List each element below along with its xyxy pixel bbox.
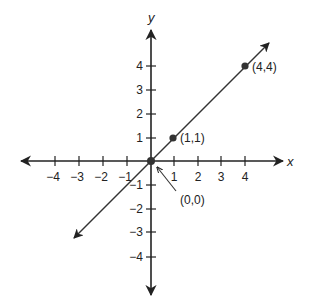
x-tick-label: −4: [46, 170, 60, 184]
point-origin: [147, 157, 155, 165]
x-tick-label: 3: [218, 170, 225, 184]
y-tick-label: 1: [136, 131, 143, 145]
point-label-1-1: (1,1): [180, 131, 205, 145]
x-tick-label: 4: [242, 170, 249, 184]
point-4-4: [241, 62, 248, 69]
point-label-4-4: (4,4): [252, 60, 277, 74]
x-tick-label: −2: [94, 170, 108, 184]
y-tick-label: −4: [129, 250, 143, 264]
y-tick-label: −2: [129, 202, 143, 216]
x-axis-label: x: [286, 154, 294, 169]
coordinate-plane: x y −4 −3 −2 −1 1 2 3 4 4 3 2 1: [0, 0, 311, 305]
y-axis-label: y: [147, 10, 156, 25]
x-tick-label: 1: [171, 170, 178, 184]
y-tick-label: 3: [136, 83, 143, 97]
x-tick-label: −3: [70, 170, 84, 184]
x-tick-labels: −4 −3 −2 −1 1 2 3 4: [46, 170, 249, 184]
y-tick-label: 4: [136, 59, 143, 73]
y-tick-label: 2: [136, 107, 143, 121]
x-tick-label: 2: [195, 170, 202, 184]
point-1-1: [169, 134, 176, 141]
point-label-origin: (0,0): [180, 193, 205, 207]
y-tick-label: −3: [129, 225, 143, 239]
